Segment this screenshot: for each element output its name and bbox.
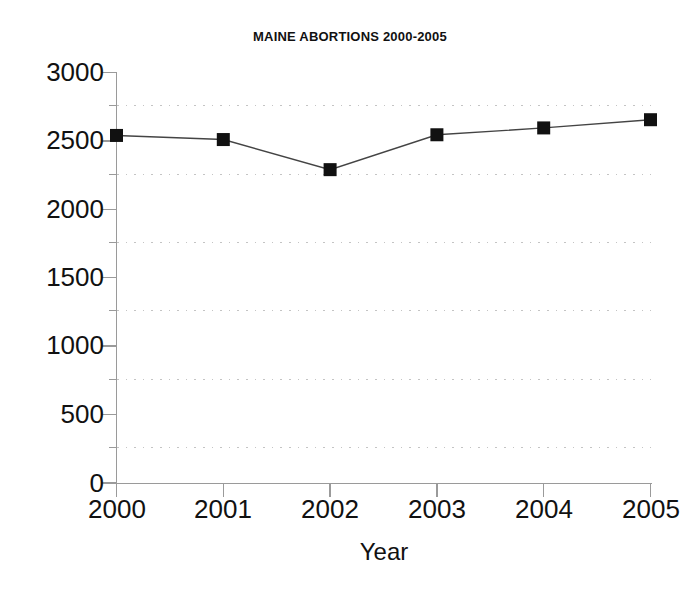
x-axis-title: Year (116, 538, 652, 566)
x-axis-label-2001: 2001 (163, 496, 283, 522)
x-axis-label-2002: 2002 (270, 496, 390, 522)
x-axis-label-2000: 2000 (57, 496, 177, 522)
x-axis-label-2005: 2005 (591, 496, 700, 522)
x-axis-label-2003: 2003 (377, 496, 497, 522)
x-axis-tick-labels: 2000 2001 2002 2003 2004 2005 (0, 0, 700, 591)
chart-container: MAINE ABORTIONS 2000-2005 (0, 0, 700, 591)
x-axis-label-2004: 2004 (484, 496, 604, 522)
